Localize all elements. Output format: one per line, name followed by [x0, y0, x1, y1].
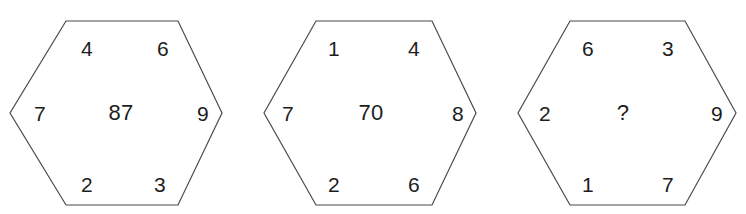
hexagon-puzzle-stage: 4 6 7 87 9 2 3 1 4 7 70 8 2 6 6 3 2 ? 9 … [0, 0, 746, 214]
hexagon-1-value-right: 9 [197, 103, 209, 124]
hexagon-1-value-bottom-right: 3 [154, 174, 166, 195]
hexagon-2-value-bottom-left: 2 [328, 174, 340, 195]
hexagon-2-value-left: 7 [282, 103, 294, 124]
hexagon-1-value-left: 7 [34, 103, 46, 124]
hexagon-3-value-bottom-left: 1 [582, 174, 594, 195]
hexagon-2: 1 4 7 70 8 2 6 [254, 0, 486, 214]
hexagon-3: 6 3 2 ? 9 1 7 [508, 0, 740, 214]
hexagon-3-value-top-right: 3 [662, 38, 674, 59]
hexagon-1: 4 6 7 87 9 2 3 [0, 0, 232, 214]
hexagon-3-value-left: 2 [539, 103, 551, 124]
hexagon-1-center-value: 87 [109, 102, 134, 124]
hexagon-2-value-right: 8 [452, 103, 464, 124]
hexagon-2-center-value: 70 [359, 102, 384, 124]
hexagon-2-value-top-right: 4 [408, 38, 420, 59]
hexagon-3-value-top-left: 6 [582, 38, 594, 59]
hexagon-3-value-bottom-right: 7 [662, 174, 674, 195]
hexagon-3-value-right: 9 [711, 103, 723, 124]
hexagon-2-value-top-left: 1 [328, 38, 340, 59]
hexagon-1-value-bottom-left: 2 [81, 174, 93, 195]
hexagon-1-value-top-left: 4 [81, 38, 93, 59]
hexagon-2-value-bottom-right: 6 [408, 174, 420, 195]
hexagon-3-center-value: ? [617, 102, 629, 124]
hexagon-1-value-top-right: 6 [157, 38, 169, 59]
